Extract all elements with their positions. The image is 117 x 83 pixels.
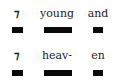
redaction-bar [93,27,103,33]
word-and: and [86,8,110,20]
word-young: young [38,8,76,20]
redaction-bar [12,27,23,33]
redaction-bar [12,70,23,76]
tironian-et-glyph: ⁊ [8,8,24,20]
redaction-bar [44,70,72,76]
word-en: en [88,50,108,62]
redaction-bar [93,70,103,76]
word-heav: heav- [40,50,74,62]
redaction-bar [44,27,72,33]
tironian-et-glyph: ⁊ [8,50,24,62]
